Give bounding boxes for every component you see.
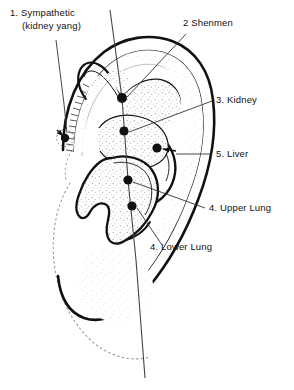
label-lower-lung: 4. Lower Lung <box>150 241 212 252</box>
cavum-concha <box>76 157 158 244</box>
shenmen-point[interactable] <box>117 93 127 103</box>
label-sympathetic-line1: 1. Sympathetic <box>10 7 75 18</box>
kidney-point[interactable] <box>119 126 128 135</box>
liver-point[interactable] <box>152 143 161 152</box>
leader-line-sympathetic <box>56 40 67 133</box>
label-shenmen: 2 Shenmen <box>183 17 233 28</box>
upper-lung-point[interactable] <box>123 175 132 184</box>
ear-anatomy-group <box>53 37 214 359</box>
ear-acupuncture-diagram: 1. Sympathetic (kidney yang) 2 Shenmen 3… <box>0 0 294 390</box>
label-liver: 5. Liver <box>216 148 248 159</box>
label-upper-lung: 4. Upper Lung <box>209 202 271 213</box>
label-kidney: 3. Kidney <box>216 94 257 105</box>
label-sympathetic-line2: (kidney yang) <box>22 20 81 31</box>
sympathetic-point[interactable] <box>61 134 69 142</box>
skin-boundary-dotted-upper <box>65 150 72 180</box>
lower-lung-point[interactable] <box>127 201 136 210</box>
